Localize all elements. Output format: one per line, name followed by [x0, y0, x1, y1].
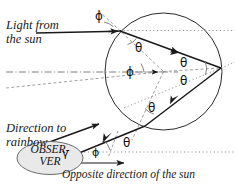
reflection-radius-guide — [164, 68, 222, 72]
angle-phi-incidence-symbol: ϕ — [95, 9, 103, 23]
angle-theta-exit-inner-symbol: θ — [148, 101, 155, 115]
light-from-sun-line1: Light from — [6, 18, 59, 32]
angle-theta-exit-symbol: θ — [123, 136, 130, 150]
angle-phi-exit-symbol: ϕ — [92, 146, 99, 159]
direction-to-rainbow-line1: Direction to — [6, 121, 66, 135]
entry-normal-guide — [99, 11, 164, 72]
angle-gamma-rainbow-symbol: γ — [62, 147, 69, 160]
angle-theta-refraction-symbol: θ — [135, 41, 142, 55]
observer-line1: OBSER- — [17, 144, 83, 156]
light-from-sun-label: Light from the sun — [6, 18, 59, 46]
observer-badge: OBSER- VER — [17, 141, 83, 175]
angle-phi-center-symbol: ϕ — [126, 65, 134, 79]
angle-theta-reflect-out-symbol: θ — [180, 74, 187, 88]
lower-diagonal-guide — [6, 72, 164, 89]
angle-theta-reflect-in-symbol: θ — [180, 56, 187, 70]
rainbow-diagram: Light from the sun Direction to rainbow … — [0, 0, 235, 185]
exit-direction-dotted-guide-right — [221, 62, 235, 68]
incoming-sun-ray-tail — [108, 31, 121, 32]
light-from-sun-line2: the sun — [6, 32, 59, 46]
observer-line2: VER — [17, 156, 83, 168]
observer-label: OBSER- VER — [17, 144, 83, 167]
arc-phi-center — [141, 64, 144, 73]
